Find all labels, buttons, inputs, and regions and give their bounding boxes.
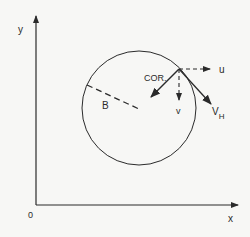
coordinate-diagram: y x 0 B u v VH COR. — [0, 0, 250, 237]
u-label: u — [219, 64, 225, 75]
origin-label: 0 — [28, 210, 33, 220]
vh-label: VH — [212, 106, 225, 121]
x-axis-label: x — [228, 213, 233, 224]
radius-b-line — [87, 85, 139, 109]
radius-b-label: B — [102, 100, 109, 111]
v-label: v — [176, 106, 181, 116]
cor-label: COR. — [144, 73, 167, 83]
vh-label-subscript: H — [219, 112, 225, 121]
y-axis-label: y — [18, 24, 23, 35]
